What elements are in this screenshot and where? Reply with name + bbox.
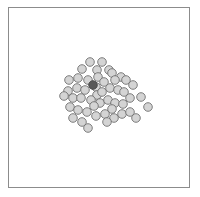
scatter-point [92,112,101,121]
scatter-point [69,114,78,123]
scatter-point [90,102,99,111]
scatter-point [144,103,153,112]
scatter-point [65,76,74,85]
scatter-points-layer [0,0,200,197]
scatter-point [69,94,78,103]
scatter-point [132,114,141,123]
scatter-point [98,88,107,97]
scatter-point [101,110,110,119]
scatter-point [77,94,86,103]
scatter-point [111,76,120,85]
scatter-point [78,65,87,74]
scatter-point [66,103,75,112]
scatter-point [98,58,107,67]
scatter-point [119,100,128,109]
scatter-point [129,81,138,90]
scatter-point [74,74,83,83]
scatter-point [74,106,83,115]
scatter-point [73,84,82,93]
scatter-point [60,92,69,101]
scatter-point [103,118,112,127]
scatter-point [83,108,92,117]
scatter-point [84,124,93,133]
scatter-point-highlighted [89,81,98,90]
scatter-point [106,84,115,93]
scatter-point [126,94,135,103]
scatter-plot-figure [0,0,200,197]
scatter-point [137,93,146,102]
scatter-point [86,58,95,67]
scatter-point [81,86,90,95]
scatter-point [118,110,127,119]
